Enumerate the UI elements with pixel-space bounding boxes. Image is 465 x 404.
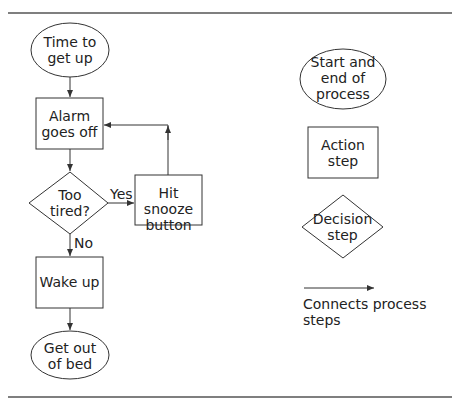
snooze-node-label: Hit snooze button: [135, 185, 202, 233]
legend-connector-label: Connects process steps: [303, 296, 465, 328]
yes-edge-label: Yes: [110, 186, 133, 202]
alarm-node-label: Alarm goes off: [36, 108, 103, 140]
no-edge-label: No: [74, 235, 93, 251]
end-node-label: Get out of bed: [31, 340, 109, 372]
arrow-snooze-to-alarm: [104, 125, 168, 175]
legend-terminal-label: Start and end of process: [300, 54, 386, 102]
wake-node-label: Wake up: [36, 274, 103, 290]
legend-decision-label: Decision step: [302, 211, 383, 243]
legend-action-label: Action step: [308, 137, 378, 169]
start-node-label: Time to get up: [31, 34, 109, 66]
decision-node-label: Too tired?: [36, 187, 104, 219]
